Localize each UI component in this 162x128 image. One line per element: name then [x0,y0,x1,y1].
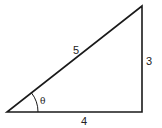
adjacent-side-label: 4 [81,115,87,127]
angle-theta-label: θ [40,96,45,106]
hypotenuse-label: 5 [73,44,79,56]
angle-arc [31,93,38,112]
triangle-shape [7,6,142,112]
right-triangle-diagram: 5 3 4 θ [0,0,162,128]
opposite-side-label: 3 [146,55,152,67]
